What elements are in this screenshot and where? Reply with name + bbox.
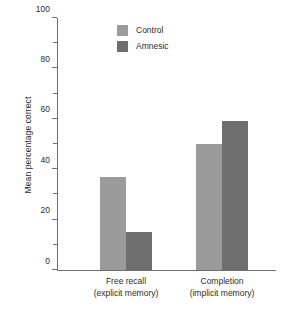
y-tick-minor <box>53 193 57 194</box>
y-tick-major <box>52 118 57 119</box>
x-category-label-line2: (explicit memory) <box>71 288 181 300</box>
x-category-label-line2: (implicit memory) <box>167 288 277 300</box>
y-tick-major <box>52 17 57 18</box>
y-tick-minor <box>53 143 57 144</box>
y-tick-minor <box>53 42 57 43</box>
x-axis-line <box>57 270 276 271</box>
y-tick-minor <box>53 244 57 245</box>
bar-control-2 <box>196 144 222 270</box>
x-category-label: Free recall(explicit memory) <box>71 276 181 299</box>
x-category-label-line1: Completion <box>201 276 244 286</box>
y-tick-label: 60 <box>41 104 50 114</box>
y-tick-label: 100 <box>36 4 50 14</box>
x-category-label-line1: Free recall <box>106 276 146 286</box>
y-tick-label: 20 <box>41 205 50 215</box>
x-category-label: Completion(implicit memory) <box>167 276 277 299</box>
y-tick-major <box>52 67 57 68</box>
y-tick-label: 40 <box>41 155 50 165</box>
legend-item-control: Control <box>117 22 169 38</box>
legend-label-amnesic: Amnesic <box>136 41 169 51</box>
y-tick-major <box>52 168 57 169</box>
y-tick-minor <box>53 93 57 94</box>
bar-chart: Mean percentage correct 020406080100 Fre… <box>0 0 281 313</box>
y-tick-label: 80 <box>41 54 50 64</box>
y-tick-label: 0 <box>45 256 50 266</box>
y-axis-line <box>57 18 58 271</box>
plot-area: 020406080100 Free recall(explicit memory… <box>57 18 275 270</box>
legend-item-amnesic: Amnesic <box>117 38 169 54</box>
y-tick-major <box>52 219 57 220</box>
bar-control-1 <box>100 177 126 270</box>
legend-label-control: Control <box>136 25 163 35</box>
bar-amnesic-2 <box>222 121 248 270</box>
legend: ControlAmnesic <box>117 22 169 54</box>
y-tick-major <box>52 269 57 270</box>
bar-amnesic-1 <box>126 232 152 270</box>
legend-swatch-amnesic <box>117 41 128 52</box>
y-axis-title: Mean percentage correct <box>23 55 33 235</box>
legend-swatch-control <box>117 25 128 36</box>
